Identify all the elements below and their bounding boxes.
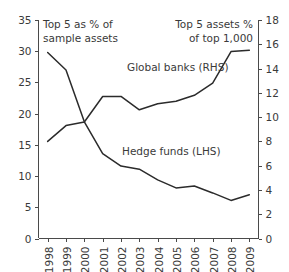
right-tick-label: 6 <box>266 160 273 172</box>
right-axis-caption-line2: of top 1,000 <box>189 32 253 44</box>
right-tick-label: 14 <box>266 63 280 75</box>
left-tick-label: 0 <box>25 233 32 245</box>
left-tick-label: 25 <box>18 76 31 88</box>
left-axis-ticks: 05101520253035 <box>18 14 38 245</box>
left-axis-caption-line1: Top 5 as % of <box>42 18 113 30</box>
left-tick-label: 20 <box>18 108 31 120</box>
left-axis-caption-line2: sample assets <box>43 32 118 44</box>
left-tick-label: 35 <box>18 14 31 26</box>
left-tick-label: 15 <box>18 139 31 151</box>
x-tick-label: 2008 <box>226 247 238 272</box>
left-tick-label: 10 <box>18 170 31 182</box>
chart-container: 05101520253035 024681012141618 199819992… <box>0 0 289 272</box>
axis-group <box>39 20 259 239</box>
right-tick-label: 0 <box>266 233 273 245</box>
right-tick-label: 18 <box>266 14 279 26</box>
series-label-hedge-funds: Hedge funds (LHS) <box>122 145 221 157</box>
x-tick-label: 2001 <box>98 247 110 272</box>
x-tick-label: 1998 <box>43 247 55 272</box>
left-tick-label: 5 <box>25 201 32 213</box>
right-tick-label: 16 <box>266 38 280 50</box>
x-tick-label: 1999 <box>61 247 73 272</box>
x-tick-label: 2005 <box>171 247 183 272</box>
x-axis-ticks: 1998199920002001200220032004200520062007… <box>43 239 256 272</box>
x-tick-label: 2002 <box>116 247 128 272</box>
x-tick-label: 2006 <box>189 246 201 272</box>
x-tick-label: 2009 <box>244 247 256 272</box>
right-tick-label: 12 <box>266 87 279 99</box>
dual-axis-line-chart: 05101520253035 024681012141618 199819992… <box>0 0 289 272</box>
x-tick-label: 2000 <box>79 247 91 272</box>
right-tick-label: 8 <box>266 135 273 147</box>
right-tick-label: 4 <box>266 184 273 196</box>
right-axis-ticks: 024681012141618 <box>259 14 280 245</box>
right-tick-label: 10 <box>266 111 279 123</box>
right-tick-label: 2 <box>266 208 273 220</box>
series-line-hedge-funds <box>48 52 250 200</box>
annotations-group: Top 5 as % of sample assets Top 5 assets… <box>42 18 253 157</box>
series-label-global-banks: Global banks (RHS) <box>127 61 229 73</box>
x-tick-label: 2003 <box>134 247 146 272</box>
x-tick-label: 2007 <box>208 247 220 272</box>
right-axis-caption-line1: Top 5 assets % <box>174 18 253 30</box>
x-tick-label: 2004 <box>153 246 165 272</box>
left-tick-label: 30 <box>18 45 31 57</box>
